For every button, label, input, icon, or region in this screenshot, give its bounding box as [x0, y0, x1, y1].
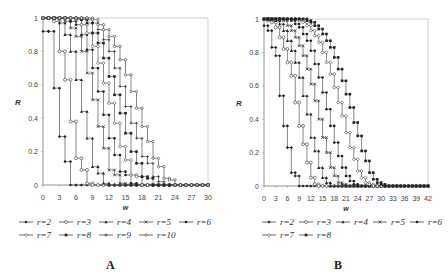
legend-marker-icon — [372, 218, 388, 226]
legend-label: r=10 — [157, 230, 176, 240]
legend-label: r=6 — [197, 217, 211, 227]
legend-marker-icon — [98, 218, 114, 226]
legend-marker-icon — [18, 218, 34, 226]
legend-item-r-3: r=3 — [298, 217, 331, 227]
legend-marker-icon — [138, 218, 154, 226]
legend-item-r-10: r=10 — [138, 230, 176, 240]
legend-label: r=4 — [117, 217, 131, 227]
legend-marker-icon — [298, 231, 314, 239]
legend-item-r-4: r=4 — [98, 217, 131, 227]
chart-panel-b: 00.20.40.60.8103691215182124273033363942… — [224, 0, 448, 280]
legend-a: r=2r=3r=4r=5r=6r=7r=8r=9r=10 — [0, 0, 224, 280]
legend-label: r=9 — [117, 230, 131, 240]
legend-marker-icon — [261, 218, 277, 226]
legend-label: r=5 — [157, 217, 171, 227]
legend-label: r=4 — [354, 217, 368, 227]
legend-item-r-5: r=5 — [372, 217, 405, 227]
legend-item-r-6: r=6 — [178, 217, 211, 227]
legend-item-r-7: r=7 — [261, 230, 294, 240]
legend-marker-icon — [261, 231, 277, 239]
chart-panel-a: 00.20.40.60.81036912151821242730wR r=2r=… — [0, 0, 224, 280]
legend-item-r-3: r=3 — [58, 217, 91, 227]
legend-marker-icon — [138, 231, 154, 239]
legend-marker-icon — [18, 231, 34, 239]
legend-label: r=7 — [37, 230, 51, 240]
legend-item-r-2: r=2 — [18, 217, 51, 227]
legend-label: r=7 — [280, 230, 294, 240]
legend-marker-icon — [298, 218, 314, 226]
legend-item-r-6: r=6 — [409, 217, 442, 227]
legend-label: r=3 — [317, 217, 331, 227]
legend-b: r=2r=3r=4r=5r=6r=7r=8 — [224, 0, 448, 280]
legend-item-r-2: r=2 — [261, 217, 294, 227]
legend-marker-icon — [98, 231, 114, 239]
legend-label: r=6 — [428, 217, 442, 227]
panel-label-b: B — [334, 258, 342, 273]
legend-marker-icon — [409, 218, 425, 226]
panel-label-a: A — [106, 258, 115, 273]
legend-label: r=5 — [391, 217, 405, 227]
legend-label: r=2 — [37, 217, 51, 227]
legend-label: r=3 — [77, 217, 91, 227]
legend-item-r-7: r=7 — [18, 230, 51, 240]
legend-item-r-5: r=5 — [138, 217, 171, 227]
legend-marker-icon — [178, 218, 194, 226]
legend-item-r-9: r=9 — [98, 230, 131, 240]
legend-label: r=8 — [317, 230, 331, 240]
legend-item-r-8: r=8 — [58, 230, 91, 240]
legend-item-r-8: r=8 — [298, 230, 331, 240]
legend-marker-icon — [335, 218, 351, 226]
legend-marker-icon — [58, 231, 74, 239]
legend-marker-icon — [58, 218, 74, 226]
legend-label: r=2 — [280, 217, 294, 227]
legend-label: r=8 — [77, 230, 91, 240]
legend-item-r-4: r=4 — [335, 217, 368, 227]
